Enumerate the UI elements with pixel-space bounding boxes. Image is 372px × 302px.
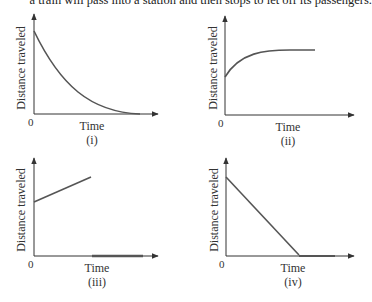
distance-line — [226, 177, 299, 255]
origin-label: 0 — [219, 258, 225, 270]
distance-line — [34, 177, 91, 202]
panel-caption: (iii) — [88, 275, 106, 289]
panel-caption: (ii) — [281, 134, 296, 148]
x-axis-label: Time — [276, 120, 301, 134]
graph-panel-iv: 0 Time (iv) Distance traveled — [207, 158, 354, 289]
origin-label: 0 — [218, 117, 224, 129]
x-axis-label: Time — [85, 261, 110, 275]
graph-panel-i: 0 Time (i) Distance traveled — [14, 14, 158, 147]
x-axis-label: Time — [281, 261, 306, 275]
graphs-figure: 0 Time (i) Distance traveled 0 Time (ii)… — [0, 0, 372, 302]
x-axis-label: Time — [80, 119, 105, 133]
origin-label: 0 — [28, 116, 34, 128]
distance-curve — [34, 31, 140, 114]
y-axis-label: Distance traveled — [14, 168, 28, 252]
graph-panel-ii: 0 Time (ii) Distance traveled — [206, 16, 354, 148]
y-axis-label: Distance traveled — [206, 26, 220, 110]
y-axis-label: Distance traveled — [14, 26, 28, 110]
distance-curve — [225, 50, 315, 77]
panel-caption: (i) — [86, 133, 97, 147]
panel-caption: (iv) — [284, 275, 301, 289]
graph-panel-iii: 0 Time (iii) Distance traveled — [14, 158, 158, 289]
y-axis-label: Distance traveled — [207, 168, 221, 252]
origin-label: 0 — [28, 258, 34, 270]
